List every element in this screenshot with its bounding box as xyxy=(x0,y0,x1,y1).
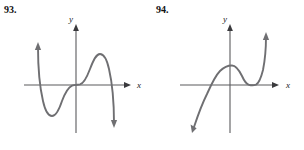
y-axis-label-93: y xyxy=(68,14,73,24)
curve-arrowhead-lower-right-93 xyxy=(111,120,117,128)
x-axis-label-93: x xyxy=(136,80,141,90)
x-axis-arrowhead-94 xyxy=(272,82,279,88)
graph-93: y x xyxy=(0,0,152,150)
exercise-94: 94. y x xyxy=(152,0,304,150)
x-axis-arrowhead-93 xyxy=(124,82,131,88)
exercise-93: 93. y x xyxy=(0,0,152,150)
curve-arrowhead-upper-right-94 xyxy=(263,32,269,40)
exercise-page: 93. y x 94. xyxy=(0,0,304,150)
y-axis-93 xyxy=(73,24,79,133)
y-axis-arrowhead-94 xyxy=(227,24,233,31)
y-axis-arrowhead-93 xyxy=(73,24,79,31)
y-axis-94 xyxy=(227,24,233,133)
x-axis-label-94: x xyxy=(285,80,290,90)
graph-94: y x xyxy=(152,0,304,150)
y-axis-label-94: y xyxy=(222,14,227,24)
curve-arrowhead-upper-left-93 xyxy=(35,42,41,50)
